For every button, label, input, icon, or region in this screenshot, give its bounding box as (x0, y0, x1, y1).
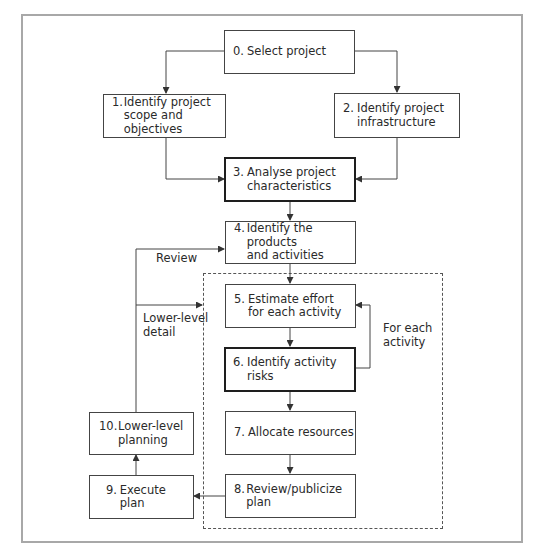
step-text: Allocate resources (248, 425, 354, 439)
step-number: 10. (99, 420, 118, 447)
step-number: 8. (234, 483, 246, 510)
step-number: 9. (106, 484, 120, 511)
step-text: for each activity (248, 305, 341, 319)
step-10-lower-level-planning: 10.Lower-levelplanning (89, 412, 194, 455)
step-number: 6. (233, 356, 247, 383)
step-number: 2. (343, 102, 357, 129)
step-8-review-publicize: 8.Review/publicize plan (225, 474, 356, 518)
step-text: Lower-level (118, 419, 183, 433)
step-number: 1. (112, 96, 124, 137)
review-label: Review (156, 252, 197, 266)
step-text: and activities (247, 248, 324, 262)
step-text: Execute plan (120, 483, 166, 511)
step-0-select-project: 0.Select project (224, 30, 355, 74)
step-number: 7. (234, 426, 248, 440)
step-2-infrastructure: 2.Identify projectinfrastructure (334, 93, 460, 138)
step-4-products-activities: 4.Identify the productsand activities (225, 221, 356, 264)
step-text: Identify activity (247, 355, 336, 369)
step-text: planning (118, 433, 168, 447)
step-text: scope and objectives (124, 108, 183, 136)
step-text: Select project (247, 44, 326, 58)
activity-text: activity (383, 335, 425, 349)
step-6-activity-risks: 6.Identify activityrisks (224, 347, 356, 392)
step-text: Identify project (124, 95, 211, 109)
detail-text: detail (143, 325, 175, 339)
step-number: 5. (234, 293, 248, 320)
step-text: Identify the products (247, 221, 313, 249)
step-text: Estimate effort (248, 292, 334, 306)
step-number: 4. (234, 222, 247, 263)
step-7-allocate-resources: 7.Allocate resources (225, 411, 356, 455)
step-5-estimate-effort: 5.Estimate effortfor each activity (225, 284, 356, 328)
step-number: 0. (233, 45, 247, 59)
step-text: characteristics (247, 179, 331, 193)
step-text: risks (247, 369, 274, 383)
lower-level-detail-label: Lower-level detail (143, 312, 208, 339)
for-each-text: For each (383, 321, 432, 335)
lower-level-text: Lower-level (143, 311, 208, 325)
step-text: Identify project (357, 101, 444, 115)
step-text: Review/publicize plan (246, 482, 342, 510)
step-text: Analyse project (247, 165, 336, 179)
step-text: infrastructure (357, 115, 436, 129)
step-9-execute-plan: 9.Execute plan (89, 475, 194, 519)
step-number: 3. (233, 166, 247, 193)
step-1-scope-objectives: 1.Identify projectscope and objectives (103, 94, 226, 138)
for-each-activity-label: For each activity (383, 322, 432, 349)
step-3-analyse-characteristics: 3.Analyse projectcharacteristics (224, 157, 356, 202)
